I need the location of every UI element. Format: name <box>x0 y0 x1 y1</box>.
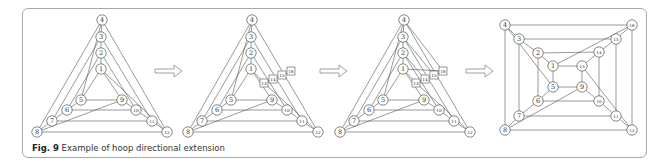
node-15: 15 <box>430 71 438 79</box>
svg-text:6: 6 <box>65 106 69 114</box>
node-12: 12 <box>465 127 475 137</box>
node-14: 14 <box>421 75 429 83</box>
svg-text:11: 11 <box>299 119 305 124</box>
svg-text:3: 3 <box>99 33 103 41</box>
node-1: 1 <box>246 64 256 74</box>
edge-4-5 <box>505 25 553 87</box>
svg-text:13: 13 <box>261 81 267 86</box>
svg-text:3: 3 <box>517 35 521 43</box>
node-5: 5 <box>76 95 86 105</box>
node-5: 5 <box>226 95 236 105</box>
node-2: 2 <box>533 48 543 58</box>
node-2: 2 <box>96 48 106 58</box>
node-15: 15 <box>611 34 621 44</box>
svg-text:14: 14 <box>596 50 602 55</box>
svg-text:2: 2 <box>249 49 253 57</box>
node-3: 3 <box>96 32 106 42</box>
node-11: 11 <box>611 111 621 121</box>
node-7: 7 <box>349 116 359 126</box>
svg-text:1: 1 <box>551 62 555 70</box>
svg-text:8: 8 <box>186 128 190 136</box>
svg-text:8: 8 <box>503 126 507 134</box>
svg-text:11: 11 <box>149 119 155 124</box>
svg-text:13: 13 <box>579 64 585 69</box>
node-9: 9 <box>419 95 429 105</box>
node-3: 3 <box>246 32 256 42</box>
node-4: 4 <box>399 15 409 25</box>
diagram-square-extended: 43211314151659610711812 <box>500 20 637 135</box>
figure-label: Fig. 9 <box>32 143 59 153</box>
edge-3-7 <box>354 37 403 121</box>
svg-text:5: 5 <box>79 96 83 104</box>
node-3: 3 <box>514 34 524 44</box>
node-2: 2 <box>246 48 256 58</box>
svg-text:9: 9 <box>580 83 584 91</box>
right-arrow-icon <box>320 65 347 77</box>
node-4: 4 <box>97 15 107 25</box>
node-10: 10 <box>282 105 292 115</box>
svg-text:16: 16 <box>288 69 294 74</box>
node-13: 13 <box>412 79 420 87</box>
node-10: 10 <box>131 105 141 115</box>
edge-1-9 <box>101 69 122 100</box>
node-7: 7 <box>514 111 524 121</box>
node-10: 10 <box>434 105 444 115</box>
node-4: 4 <box>500 20 510 30</box>
svg-text:15: 15 <box>613 37 619 42</box>
svg-text:5: 5 <box>229 96 233 104</box>
figure-caption: Fig. 9 Example of hoop directional exten… <box>32 143 225 153</box>
node-5: 5 <box>378 95 388 105</box>
node-14: 14 <box>269 75 277 83</box>
svg-text:9: 9 <box>422 96 426 104</box>
node-3: 3 <box>398 32 408 42</box>
edge-4-8 <box>188 20 252 132</box>
svg-text:7: 7 <box>352 117 356 125</box>
svg-text:5: 5 <box>381 96 385 104</box>
right-arrow-icon <box>466 65 493 77</box>
svg-text:12: 12 <box>467 130 473 135</box>
node-9: 9 <box>577 82 587 92</box>
node-16: 16 <box>287 67 295 75</box>
svg-text:7: 7 <box>50 117 54 125</box>
node-6: 6 <box>62 105 72 115</box>
svg-text:8: 8 <box>338 128 342 136</box>
svg-text:4: 4 <box>503 21 507 29</box>
svg-text:1: 1 <box>401 65 405 73</box>
edge-4-8 <box>37 20 102 132</box>
edge-1-16 <box>553 25 632 66</box>
node-16: 16 <box>627 20 637 30</box>
svg-text:12: 12 <box>164 130 170 135</box>
svg-text:2: 2 <box>536 49 540 57</box>
diagram-triangle-connected: 43215961071181213141516 <box>335 15 475 137</box>
node-9: 9 <box>267 95 277 105</box>
node-1: 1 <box>398 64 408 74</box>
node-14: 14 <box>594 47 604 57</box>
svg-text:2: 2 <box>401 49 405 57</box>
node-12: 12 <box>162 127 172 137</box>
edge-4-8 <box>340 20 404 132</box>
svg-text:10: 10 <box>133 108 139 113</box>
diagram-triangle-base: 432159610711812 <box>32 15 172 137</box>
node-4: 4 <box>247 15 257 25</box>
svg-text:14: 14 <box>422 77 428 82</box>
svg-text:3: 3 <box>249 33 253 41</box>
svg-text:7: 7 <box>200 117 204 125</box>
svg-text:6: 6 <box>367 106 371 114</box>
node-5: 5 <box>548 82 558 92</box>
node-13: 13 <box>260 79 268 87</box>
figure-caption-text: Example of hoop directional extension <box>59 143 225 153</box>
right-arrow-icon <box>155 65 182 77</box>
svg-text:15: 15 <box>431 73 437 78</box>
node-8: 8 <box>335 127 345 137</box>
node-2: 2 <box>398 48 408 58</box>
svg-text:9: 9 <box>270 96 274 104</box>
node-9: 9 <box>117 95 127 105</box>
svg-text:15: 15 <box>279 73 285 78</box>
svg-text:6: 6 <box>215 106 219 114</box>
svg-text:2: 2 <box>99 49 103 57</box>
svg-text:16: 16 <box>629 23 635 28</box>
svg-text:3: 3 <box>401 33 405 41</box>
node-10: 10 <box>594 96 604 106</box>
svg-text:4: 4 <box>250 16 254 24</box>
node-7: 7 <box>197 116 207 126</box>
